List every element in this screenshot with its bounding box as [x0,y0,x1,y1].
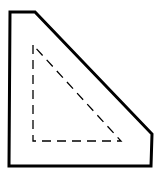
diagram-canvas [0,0,159,175]
outer-pentagon-shape [9,12,152,166]
inner-dashed-triangle [33,45,121,141]
